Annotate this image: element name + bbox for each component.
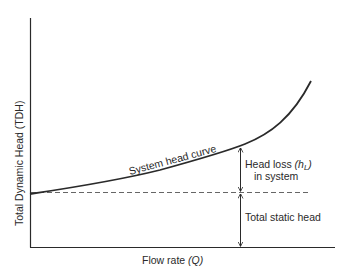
x-axis-label: Flow rate (Q) <box>142 254 203 266</box>
y-axis-label: Total Dynamic Head (TDH) <box>13 101 25 226</box>
system-head-curve-diagram: Total Dynamic Head (TDH) Flow rate (Q) S… <box>0 0 348 274</box>
system-head-curve-label: System head curve <box>127 142 217 177</box>
head-loss-label-line2: in system <box>254 170 299 182</box>
static-head-label: Total static head <box>245 211 321 223</box>
